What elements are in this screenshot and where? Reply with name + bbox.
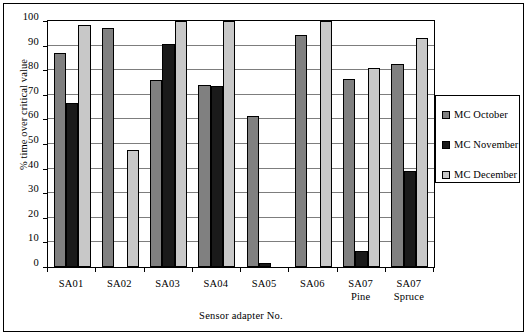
legend-item: MC December [442,169,517,180]
x-tick-label-line1: SA07 [348,278,373,289]
bar [247,116,259,267]
x-tick-label-line1: SA06 [300,278,325,289]
bar [295,35,307,267]
bar-chart-figure: 0102030405060708090100 % time over criti… [0,0,527,335]
legend-label: MC October [454,109,508,120]
bar [127,150,139,267]
x-tick-label: SA05 [240,277,288,290]
x-tick-label: SA01 [47,277,95,290]
legend-swatch-icon [442,111,450,119]
bar [162,44,174,267]
y-tick-label: 40 [28,160,39,170]
x-tick-label-line1: SA02 [107,278,132,289]
y-tick-label: 60 [28,110,39,120]
bar [102,28,114,267]
bar [404,171,416,267]
x-tick-label: SA04 [192,277,240,290]
x-tick-label-line1: SA05 [252,278,277,289]
bar [211,86,223,267]
bar [259,263,271,267]
x-tick-label: SA07Spruce [385,277,433,303]
x-tick-mark [337,268,338,272]
y-tick-label: 100 [23,12,39,22]
y-tick-label: 80 [28,61,39,71]
y-tick-label: 70 [28,86,39,96]
bar [368,68,380,267]
x-tick-mark [288,268,289,272]
x-tick-label-line1: SA04 [204,278,229,289]
y-tick-label: 20 [28,209,39,219]
x-tick-mark [95,268,96,272]
plot-area [47,20,435,268]
x-tick-label: SA02 [95,277,143,290]
bar [223,21,235,267]
legend-swatch-icon [442,171,450,179]
legend: MC OctoberMC NovemberMC December [435,95,520,183]
x-tick-label-line1: SA07 [397,278,422,289]
legend-item: MC November [442,139,518,150]
x-tick-mark [192,268,193,272]
bar [150,80,162,267]
legend-swatch-icon [442,141,450,149]
bar [175,21,187,267]
bar [343,79,355,267]
x-axis: SA01SA02SA03SA04SA05SA06SA07PineSA07Spru… [47,268,435,334]
legend-label: MC November [454,139,518,150]
x-tick-label-line1: SA01 [59,278,84,289]
y-tick-label: 50 [28,135,39,145]
x-tick-mark [47,268,48,272]
legend-item: MC October [442,109,508,120]
x-tick-mark [240,268,241,272]
bar [78,25,90,267]
x-tick-label-line1: SA03 [155,278,180,289]
bar [66,103,78,267]
bar [198,85,210,267]
x-tick-label: SA07Pine [337,277,385,303]
x-tick-mark [385,268,386,272]
y-tick-label: 0 [34,258,39,268]
x-tick-label-line2: Pine [337,290,385,303]
legend-label: MC December [454,169,517,180]
bar [416,38,428,267]
y-tick-label: 30 [28,184,39,194]
y-tick-label: 10 [28,233,39,243]
x-tick-label: SA03 [144,277,192,290]
x-tick-label-line2: Spruce [385,290,433,303]
y-axis-title: % time over critical value [18,25,29,205]
x-tick-mark [144,268,145,272]
bar [54,53,66,267]
x-tick-mark [433,268,434,272]
x-tick-label: SA06 [288,277,336,290]
bar [320,21,332,267]
bar [391,64,403,267]
x-axis-title: Sensor adapter No. [47,310,435,321]
bar [355,251,367,267]
y-tick-label: 90 [28,37,39,47]
